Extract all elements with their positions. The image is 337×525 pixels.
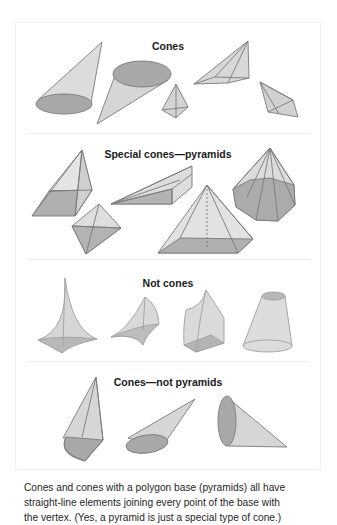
caption-line: the vertex. (Yes, a pyramid is just a sp… bbox=[24, 510, 324, 525]
figure-caption: Cones and cones with a polygon base (pyr… bbox=[24, 480, 324, 525]
tilted-quadrilateral-pyramid bbox=[260, 82, 298, 117]
circular-cone-on-side bbox=[218, 396, 287, 447]
geometric-illustrations bbox=[0, 0, 337, 525]
oblique-circular-cone bbox=[36, 42, 102, 114]
curved-sail-shape bbox=[111, 297, 159, 345]
elongated-wedge-pyramid bbox=[111, 166, 192, 204]
dome-topped-prism bbox=[184, 290, 224, 352]
flat-pyramid bbox=[194, 41, 249, 84]
inverted-elliptical-cone bbox=[97, 61, 171, 124]
concave-curved-pyramid bbox=[38, 278, 97, 353]
caption-line: Cones and cones with a polygon base (pyr… bbox=[24, 480, 324, 495]
octagonal-pyramid bbox=[233, 148, 295, 221]
frustum bbox=[243, 292, 292, 352]
small-triangular-pyramid bbox=[162, 84, 188, 118]
quarter-round-base-cone bbox=[63, 377, 103, 461]
caption-line: straight-line elements joining every poi… bbox=[24, 495, 324, 510]
elliptical-cone-pointing-right bbox=[125, 399, 195, 456]
rectangular-bipyramid-view bbox=[72, 204, 121, 254]
square-pyramid-oblique bbox=[32, 150, 92, 216]
